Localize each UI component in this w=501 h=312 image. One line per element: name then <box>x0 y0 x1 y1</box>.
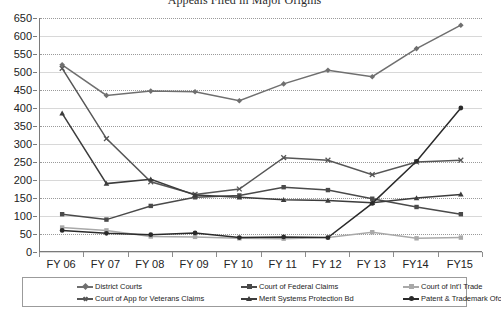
data-point-marker <box>60 212 64 216</box>
legend-label: Patent & Trademark Ofc <box>421 294 501 303</box>
data-point-marker <box>149 204 153 208</box>
legend-swatch-icon <box>241 282 257 291</box>
y-axis-label: 150 <box>14 192 32 204</box>
y-axis-tick <box>33 36 37 37</box>
data-point-marker <box>414 205 418 209</box>
data-point-marker <box>59 111 65 116</box>
data-point-marker <box>60 228 65 233</box>
x-axis-label: FY 10 <box>224 258 253 270</box>
y-axis-label: 350 <box>14 120 32 132</box>
y-axis-label: 100 <box>14 210 32 222</box>
legend-swatch-icon <box>241 294 257 303</box>
chart-legend: District CourtsCourt of Federal ClaimsCo… <box>22 277 467 307</box>
data-point-marker <box>148 88 154 94</box>
y-axis-label: 50 <box>20 228 32 240</box>
legend-swatch-icon <box>77 294 93 303</box>
x-axis-label: FY14 <box>402 258 428 270</box>
data-point-marker <box>237 98 243 104</box>
plot-area <box>39 18 482 252</box>
x-axis-label: FY 07 <box>91 258 120 270</box>
y-axis-tick <box>33 126 37 127</box>
x-axis-tick <box>393 252 394 257</box>
data-point-marker <box>458 106 463 111</box>
x-axis-tick <box>39 252 40 257</box>
x-axis-tick <box>482 252 483 257</box>
data-point-marker <box>148 232 153 237</box>
y-axis-label: 0 <box>26 246 32 258</box>
data-point-marker <box>325 67 331 73</box>
x-axis-label: FY 11 <box>268 258 296 270</box>
x-axis-label: FY 09 <box>179 258 208 270</box>
data-point-marker <box>370 201 375 206</box>
x-axis-tick <box>216 252 217 257</box>
x-axis-label: FY15 <box>447 258 473 270</box>
x-axis-tick <box>349 252 350 257</box>
data-point-marker <box>281 234 286 239</box>
series-line <box>62 113 461 202</box>
legend-label: Court of App for Veterans Claims <box>95 294 204 303</box>
legend-item[interactable]: Court of Federal Claims <box>241 282 338 291</box>
y-axis-label: 450 <box>14 84 32 96</box>
legend-item[interactable]: Patent & Trademark Ofc <box>403 294 501 303</box>
x-axis-tick <box>438 252 439 257</box>
data-point-marker <box>326 235 331 240</box>
y-axis-tick <box>33 252 37 253</box>
x-axis-label: FY 08 <box>135 258 164 270</box>
legend-item[interactable]: Merit Systems Protection Bd <box>241 294 354 303</box>
data-point-marker <box>326 188 330 192</box>
data-point-marker <box>104 217 108 221</box>
legend-swatch-icon <box>77 282 93 291</box>
x-axis-tick <box>83 252 84 257</box>
y-axis-label: 300 <box>14 138 32 150</box>
data-point-marker <box>458 22 464 28</box>
y-axis-tick <box>33 234 37 235</box>
y-axis-label: 500 <box>14 66 32 78</box>
legend-label: Court of Federal Claims <box>259 282 338 291</box>
y-axis-tick <box>33 90 37 91</box>
data-point-marker <box>104 136 109 141</box>
legend-label: Court of Int'l Trade <box>421 282 482 291</box>
x-axis-tick <box>261 252 262 257</box>
y-axis-label: 400 <box>14 102 32 114</box>
data-point-marker <box>459 235 463 239</box>
legend-item[interactable]: Court of Int'l Trade <box>403 282 482 291</box>
y-axis-tick <box>33 72 37 73</box>
y-axis-tick <box>33 144 37 145</box>
legend-swatch-icon <box>403 294 419 303</box>
x-axis-label: FY 13 <box>357 258 386 270</box>
legend-item[interactable]: District Courts <box>77 282 142 291</box>
data-point-marker <box>459 212 463 216</box>
data-point-marker <box>193 235 197 239</box>
legend-swatch-icon <box>403 282 419 291</box>
series-line <box>62 25 461 101</box>
data-point-marker <box>281 81 287 87</box>
y-axis-label: 600 <box>14 30 32 42</box>
legend-label: District Courts <box>95 282 142 291</box>
data-point-marker <box>414 159 419 164</box>
y-axis-tick <box>33 162 37 163</box>
data-point-marker <box>193 231 198 236</box>
x-axis-label: FY 12 <box>312 258 341 270</box>
y-axis-tick <box>33 54 37 55</box>
series-lines <box>40 18 483 252</box>
data-point-marker <box>281 185 285 189</box>
y-axis: 050100150200250300350400450500550600650 <box>0 18 37 252</box>
y-axis-label: 250 <box>14 156 32 168</box>
x-axis-label: FY 06 <box>47 258 76 270</box>
y-axis-tick <box>33 18 37 19</box>
data-point-marker <box>237 235 242 240</box>
chart-title: Appeals Filed in Major Origins <box>0 0 489 8</box>
x-axis: FY 06FY 07FY 08FY 09FY 10FY 11FY 12FY 13… <box>39 252 482 276</box>
y-axis-label: 650 <box>14 12 32 24</box>
data-point-marker <box>104 231 109 236</box>
series-line <box>62 187 461 219</box>
y-axis-tick <box>33 180 37 181</box>
data-point-marker <box>414 236 418 240</box>
y-axis-tick <box>33 216 37 217</box>
data-point-marker <box>192 89 198 95</box>
x-axis-tick <box>305 252 306 257</box>
y-axis-label: 200 <box>14 174 32 186</box>
legend-item[interactable]: Court of App for Veterans Claims <box>77 294 204 303</box>
y-axis-tick <box>33 198 37 199</box>
